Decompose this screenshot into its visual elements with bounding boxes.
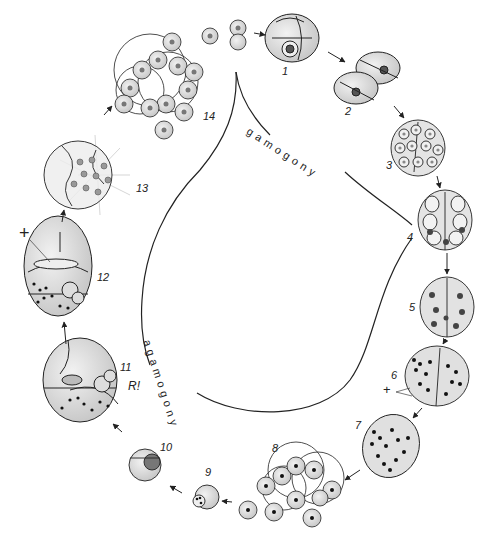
stage-12-shell [24,216,92,316]
stage-14-cluster [114,20,246,139]
stage-label-9: 9 [205,467,211,478]
plus-mark-stage-6: + [383,383,391,396]
stage-4-cluster [418,190,472,250]
stage-label-3: 3 [386,160,392,171]
stage-label-13: 13 [136,183,148,194]
stage-label-11: 11 [120,362,131,373]
stage-2-shells [334,52,400,104]
stage-1-shell [265,14,319,62]
foraminifera-life-cycle-diagram: 1 2 3 4 5 6 7 8 9 10 11 12 13 14 R! + + … [0,0,488,554]
stage-9-shell [193,485,219,509]
diagram-drawing [0,0,488,554]
stage-10-shell [129,449,161,481]
stage-label-4: 4 [407,232,413,243]
stage-label-5: 5 [409,302,415,313]
stage-5-cluster [420,277,474,337]
stage-13-shell [44,135,130,215]
stage-label-6: 6 [391,370,397,381]
stage-label-1: 1 [282,66,288,77]
stage-label-7: 7 [355,420,361,431]
stage-label-14: 14 [203,111,215,122]
stage-11-shell [43,338,118,422]
plus-mark-stage-12: + [19,224,30,242]
stage-label-10: 10 [160,442,172,453]
stage-6-cluster [405,346,469,406]
phase-divider-curves [142,72,412,412]
stage-label-2: 2 [345,106,351,117]
stage-label-12: 12 [97,272,109,283]
stage-8-cluster [239,442,344,527]
stage-7-cluster [354,406,429,485]
meiosis-mark: R! [128,380,140,392]
stage-3-cluster [391,120,445,176]
stage-label-8: 8 [272,443,278,454]
